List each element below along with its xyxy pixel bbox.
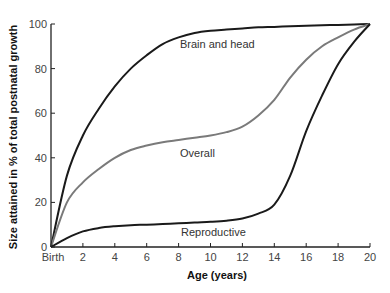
x-axis-title: Age (years) [187, 269, 247, 281]
x-tick-label: 12 [236, 251, 248, 263]
growth-chart: 020406080100 Birth2468101214161820 Size … [0, 0, 390, 293]
x-tick-label: 14 [268, 251, 280, 263]
y-tick-label: 80 [35, 63, 47, 75]
x-tick-label: 18 [332, 251, 344, 263]
x-tick-label: 8 [176, 251, 182, 263]
y-tick-label: 40 [35, 152, 47, 164]
y-axis-title: Size attained in % of total postnatal gr… [7, 25, 19, 250]
brain-and-head-label: Brain and head [180, 38, 255, 50]
x-tick-label: Birth [42, 251, 65, 263]
y-tick-label: 60 [35, 107, 47, 119]
y-tick-label: 100 [29, 18, 47, 30]
x-tick-label: 4 [112, 251, 118, 263]
x-tick-label: 6 [144, 251, 150, 263]
x-tick-label: 2 [80, 251, 86, 263]
x-tick-label: 20 [364, 251, 376, 263]
reproductive-label: Reproductive [181, 226, 246, 238]
overall-label: Overall [180, 147, 215, 159]
y-tick-label: 20 [35, 196, 47, 208]
x-tick-label: 10 [204, 251, 216, 263]
x-tick-label: 16 [300, 251, 312, 263]
